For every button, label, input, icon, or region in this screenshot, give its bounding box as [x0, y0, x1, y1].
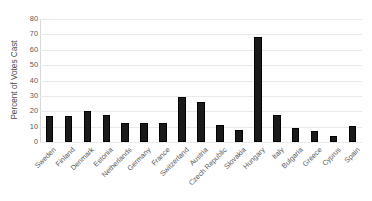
bar [197, 102, 205, 142]
y-tick-label: 50 [22, 61, 38, 69]
bar [178, 97, 186, 142]
x-axis-tick-labels: SwedenFinlandDenmarkEstoniaNetherlandsGe… [40, 143, 362, 201]
bar-chart: Percent of Votes Cast 01020304050607080 … [0, 0, 372, 201]
y-tick-label: 80 [22, 15, 38, 23]
bar [121, 123, 129, 142]
bar [216, 125, 224, 142]
bar [311, 131, 319, 142]
bar [292, 128, 300, 142]
bar [273, 115, 281, 142]
bar [84, 111, 92, 142]
bars [40, 19, 362, 142]
bar [254, 37, 262, 142]
y-tick-label: 40 [22, 77, 38, 85]
y-tick-label: 30 [22, 92, 38, 100]
y-tick-label: 60 [22, 46, 38, 54]
bar [159, 123, 167, 142]
bar [349, 126, 357, 142]
bar [330, 136, 338, 142]
y-tick-label: 20 [22, 107, 38, 115]
y-tick-label: 10 [22, 123, 38, 131]
bar [103, 115, 111, 142]
y-tick-label: 0 [22, 138, 38, 146]
bar [140, 123, 148, 142]
bar [235, 130, 243, 142]
bar [46, 116, 54, 142]
y-tick-label: 70 [22, 30, 38, 38]
bar [65, 116, 73, 142]
